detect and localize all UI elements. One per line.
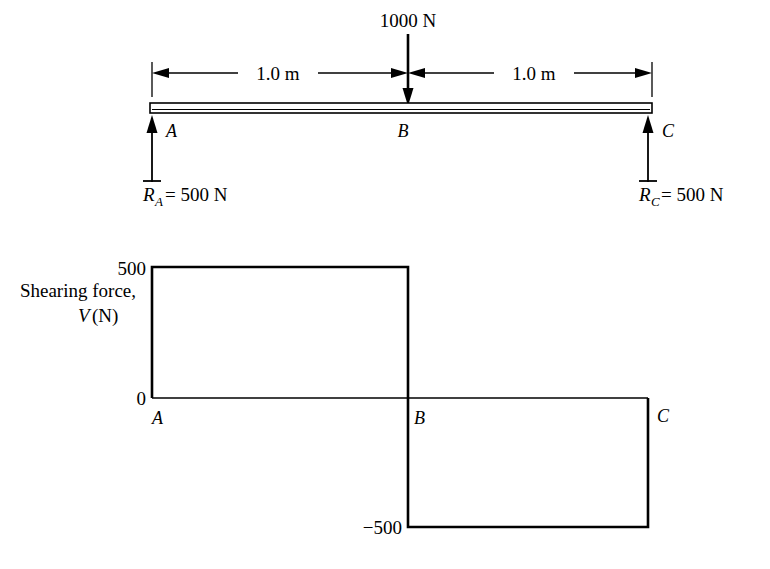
beam-point-label-c: C: [662, 121, 675, 141]
shear-axis-units: (N): [92, 305, 118, 327]
figure-canvas: 1000 N 1.0 m: [0, 0, 770, 569]
reaction-a-subscript: A: [154, 194, 163, 209]
shear-axis-label-line1: Shearing force,: [20, 280, 136, 301]
shear-point-label-c: C: [657, 406, 670, 426]
beam-point-label-b: B: [398, 121, 409, 141]
engineering-figure: 1000 N 1.0 m: [0, 0, 770, 569]
reaction-c-subscript: C: [651, 194, 660, 209]
reaction-c-value: = 500 N: [661, 184, 724, 205]
reaction-a-value: = 500 N: [165, 184, 228, 205]
reaction-c-symbol: R: [638, 184, 651, 205]
dimension-right: 1.0 m: [408, 63, 652, 84]
shear-tick-label-positive: 500: [118, 258, 147, 279]
beam-free-body-diagram: 1000 N 1.0 m: [142, 10, 724, 209]
shear-axis-symbol: V: [78, 305, 92, 326]
shear-point-label-a: A: [151, 408, 164, 428]
reaction-arrow-a: [143, 115, 161, 182]
applied-load-arrow-icon: [403, 34, 414, 106]
shear-step-positive: [152, 267, 408, 398]
dimension-left: 1.0 m: [152, 63, 408, 84]
reaction-label-c: R C = 500 N: [638, 184, 724, 209]
dimension-right-label: 1.0 m: [512, 63, 556, 84]
shear-point-label-b: B: [414, 408, 425, 428]
shearing-force-diagram: Shearing force, V (N) 500 0 −500 A B C: [20, 258, 670, 538]
shear-axis-label-line2: V (N): [78, 305, 118, 327]
reaction-label-a: R A = 500 N: [142, 184, 228, 209]
beam-point-label-a: A: [165, 121, 178, 141]
shear-step-negative: [408, 398, 648, 527]
shear-tick-label-negative: −500: [363, 517, 402, 538]
shear-tick-label-zero: 0: [137, 388, 147, 409]
reaction-a-symbol: R: [142, 184, 155, 205]
beam-member: [150, 103, 652, 113]
dimension-left-label: 1.0 m: [256, 63, 300, 84]
reaction-arrow-c: [639, 115, 657, 182]
applied-load-label: 1000 N: [380, 10, 437, 31]
